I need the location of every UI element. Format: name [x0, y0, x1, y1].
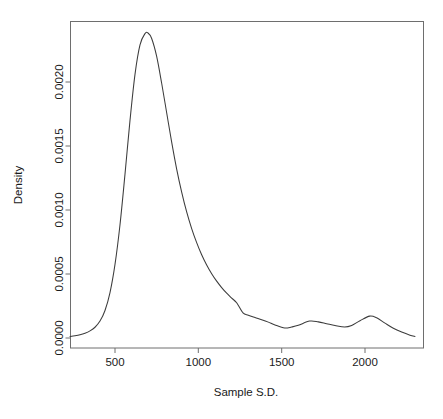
- x-tick-label: 2000: [352, 356, 378, 368]
- x-tick-label: 500: [105, 356, 124, 368]
- x-tick-label: 1000: [186, 356, 212, 368]
- y-tick-label: 0.0000: [53, 320, 65, 355]
- y-tick-label: 0.0015: [53, 128, 65, 163]
- y-tick-label: 0.0005: [53, 256, 65, 291]
- x-tick-label: 1500: [269, 356, 295, 368]
- y-tick-label: 0.0020: [53, 64, 65, 99]
- x-axis-title: Sample S.D.: [214, 386, 279, 398]
- y-axis-title: Density: [12, 166, 24, 205]
- plot-canvas: 0.00000.00050.00100.00150.0020 500100015…: [0, 0, 443, 419]
- density-plot-figure: 0.00000.00050.00100.00150.0020 500100015…: [0, 0, 443, 419]
- y-tick-label: 0.0010: [53, 192, 65, 227]
